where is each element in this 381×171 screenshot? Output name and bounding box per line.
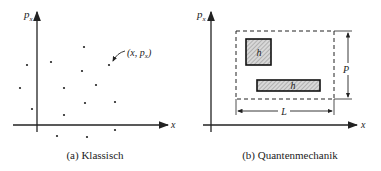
phase-point	[81, 70, 83, 72]
cell-label-1: h	[257, 47, 262, 58]
caption-classical: (a) Klassisch	[40, 149, 150, 161]
phase-point	[26, 64, 28, 66]
phase-point	[31, 108, 33, 110]
phase-point	[114, 129, 116, 131]
phase-cell-bar	[257, 80, 320, 91]
phase-point	[63, 114, 65, 116]
y-axis-label: px	[196, 8, 207, 23]
width-label: L	[280, 106, 287, 117]
phase-space-diagram: px x (x, px) h h P L px x	[0, 0, 381, 171]
phase-point	[114, 101, 116, 103]
x-axis-label: x	[170, 119, 176, 130]
panel-classical: px x (x, px)	[13, 8, 176, 138]
phase-points	[19, 46, 116, 138]
phase-point	[19, 87, 21, 89]
point-annotation: (x, px)	[127, 47, 152, 60]
x-axis-label: x	[360, 119, 366, 130]
phase-point	[95, 84, 97, 86]
phase-point	[84, 102, 86, 104]
phase-point	[86, 136, 88, 138]
panel-quantum: h h P L px x	[196, 8, 366, 132]
phase-point	[56, 135, 58, 137]
phase-point	[108, 64, 110, 66]
cell-label-2: h	[291, 80, 296, 91]
annotation-arrow	[113, 51, 125, 61]
y-axis-label: px	[23, 8, 34, 23]
phase-point	[83, 46, 85, 48]
height-label: P	[342, 64, 349, 75]
phase-point	[63, 87, 65, 89]
phase-point	[50, 61, 52, 63]
caption-quantum: (b) Quantenmechanik	[225, 149, 355, 161]
